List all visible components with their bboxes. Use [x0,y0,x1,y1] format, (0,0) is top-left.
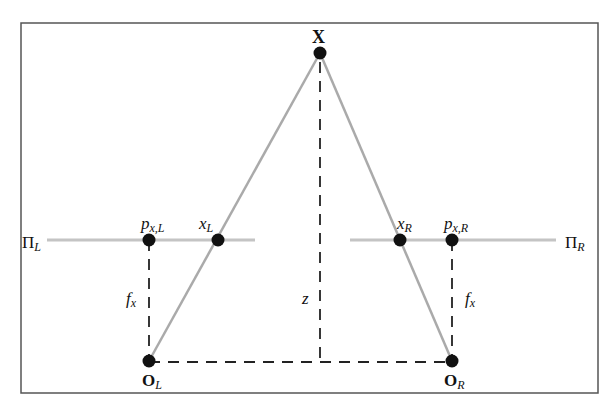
point-x-L [212,234,225,247]
label-sub: L [207,221,214,235]
stereo-diagram [0,0,613,414]
label-sub: R [577,240,584,254]
label-main: p [141,214,150,233]
label-left-center: OL [142,372,162,391]
label-sub: R [405,221,412,235]
label-sub: x [131,296,136,310]
label-sub: R [457,378,464,392]
point-O-L [143,355,156,368]
point-X [314,47,327,60]
label-left-focal: fx [126,290,136,309]
label-main: O [444,371,457,390]
label-main: x [397,214,405,233]
label-right-projection: xR [397,215,412,234]
label-right-focal: fx [465,290,475,309]
label-right-image-plane: ΠR [565,234,585,253]
right-ray [320,53,452,361]
label-sub: x,R [453,221,469,235]
label-main: x [199,214,207,233]
point-O-R [446,355,459,368]
label-sub: L [155,378,162,392]
label-left-image-plane: ΠL [22,234,41,253]
label-main: Π [22,233,34,252]
label-world-point: X [312,28,325,46]
frame-border [21,23,598,393]
label-right-principal-point: px,R [444,215,468,234]
label-main: p [444,214,453,233]
label-main: Π [565,233,577,252]
label-depth: z [302,290,309,307]
label-left-projection: xL [199,215,213,234]
label-sub: x,L [150,221,165,235]
point-px-L [143,234,156,247]
label-right-center: OR [444,372,465,391]
label-main: O [142,371,155,390]
label-sub: L [34,240,41,254]
point-px-R [446,234,459,247]
label-left-principal-point: px,L [141,215,165,234]
left-ray [149,53,320,361]
label-sub: x [470,296,475,310]
point-x-R [394,234,407,247]
